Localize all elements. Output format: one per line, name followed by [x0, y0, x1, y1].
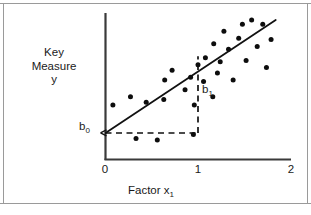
- y-axis-title-line-2: Measure: [17, 60, 91, 74]
- scatter-point: [260, 22, 265, 27]
- intercept-label-subscript: 0: [85, 126, 89, 135]
- scatter-plot-canvas: [0, 0, 311, 215]
- slope-label-subscript: 1: [208, 89, 212, 98]
- scatter-point: [264, 65, 269, 70]
- scatter-point: [162, 77, 167, 82]
- scatter-point: [144, 100, 149, 105]
- scatter-point: [244, 58, 249, 63]
- scatter-point: [255, 44, 260, 49]
- reference-guides-group: [106, 56, 199, 133]
- scatter-point: [231, 77, 236, 82]
- scatter-point: [110, 103, 115, 108]
- scatter-point: [226, 47, 231, 52]
- x-axis-title-subscript: 1: [170, 190, 174, 199]
- scatter-point: [188, 75, 193, 80]
- scatter-point: [191, 132, 196, 137]
- scatter-point: [221, 29, 226, 34]
- scatter-point: [215, 71, 220, 76]
- scatter-point: [269, 37, 274, 42]
- y-axis-title-line-1: Key: [17, 46, 91, 60]
- x-tick-label-2: 2: [281, 163, 301, 177]
- scatter-point: [211, 41, 216, 46]
- y-axis-title-line-3: y: [17, 73, 91, 87]
- figure-container: Key Measure y Factor x1 0 1 2 b0 b1: [0, 0, 311, 215]
- data-points-group: [110, 18, 273, 143]
- x-axis-title-base: Factor x: [128, 184, 170, 196]
- intercept-label-b0: b0: [79, 120, 90, 134]
- x-tick-label-0: 0: [95, 163, 115, 177]
- y-axis-title: Key Measure y: [17, 46, 91, 87]
- x-axis-title: Factor x1: [128, 184, 174, 198]
- scatter-point: [128, 94, 133, 99]
- scatter-point: [218, 59, 223, 64]
- scatter-point: [134, 136, 139, 141]
- scatter-point: [236, 36, 241, 41]
- x-tick-label-1: 1: [188, 163, 208, 177]
- slope-label-b1: b1: [202, 83, 213, 97]
- scatter-point: [203, 55, 208, 60]
- scatter-point: [240, 22, 245, 27]
- scatter-point: [161, 97, 166, 102]
- scatter-point: [192, 103, 197, 108]
- scatter-point: [196, 62, 201, 67]
- scatter-point: [155, 137, 160, 142]
- scatter-point: [170, 68, 175, 73]
- fit-line-group: [101, 20, 276, 136]
- scatter-point: [183, 87, 188, 92]
- scatter-point: [249, 18, 254, 23]
